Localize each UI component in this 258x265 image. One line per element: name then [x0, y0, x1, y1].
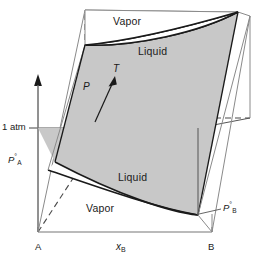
composition-subscript: B: [121, 246, 126, 253]
pure-b-vapor-pressure-label: P°B: [223, 203, 237, 213]
phase-diagram-canvas: [0, 0, 258, 265]
pure-b-bottom-connector: [198, 215, 212, 232]
pressure-axis-arrowhead: [34, 74, 42, 86]
top-vapor-region-label: Vapor: [113, 16, 141, 27]
front-vapor-region-label: Vapor: [86, 203, 114, 214]
pure-b-leader-line: [199, 209, 221, 214]
temperature-axis-label: T: [113, 64, 119, 74]
top-liquid-region-label: Liquid: [138, 46, 167, 57]
front-liquid-region-label: Liquid: [118, 172, 147, 183]
pressure-axis-label: P: [83, 82, 90, 92]
pure-a-vapor-pressure-label: P°A: [8, 155, 22, 165]
corner-a-label: A: [35, 242, 41, 252]
composition-axis-label: xB: [116, 242, 126, 252]
pure-a-subscript: A: [17, 159, 21, 166]
box-edge-top-right-connector: [238, 12, 250, 16]
corner-b-label: B: [208, 242, 214, 252]
phase-diagram-figure: P T 1 atm P°A P°B Vapor Liquid Liquid Va…: [0, 0, 258, 265]
pure-b-subscript: B: [232, 207, 236, 214]
one-atm-tick-label: 1 atm: [2, 122, 26, 132]
